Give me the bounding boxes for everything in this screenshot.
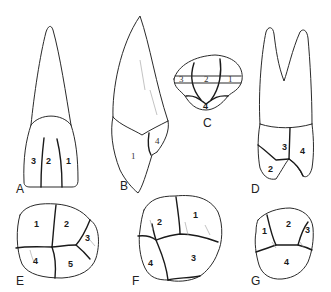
panel-label: D <box>251 182 260 196</box>
panel-label: G <box>251 274 260 288</box>
lobe-label: 4 <box>300 146 305 156</box>
lobe-label: 1 <box>228 74 233 84</box>
lobe-label: 1 <box>131 151 136 161</box>
panel-label: B <box>120 179 128 193</box>
lobe-label: 4 <box>148 258 153 268</box>
dental-lobes-figure: 3 2 1 A 1 4 B 3 2 1 4 C 3 4 2 <box>0 0 331 292</box>
lobe-label: 5 <box>68 259 73 269</box>
panel-d-tooth: 3 4 2 D <box>251 28 314 196</box>
panel-f-tooth: 2 1 4 3 F <box>132 196 222 288</box>
lobe-label: 3 <box>85 233 90 243</box>
lobe-label: 2 <box>157 217 162 227</box>
panel-a-tooth: 3 2 1 A <box>16 26 78 196</box>
lobe-label: 3 <box>31 156 36 166</box>
panel-label: A <box>16 182 24 196</box>
panel-e-tooth: 1 2 3 4 5 E <box>16 204 98 288</box>
lobe-label: 1 <box>34 219 39 229</box>
lobe-label: 3 <box>282 142 287 152</box>
panel-label: E <box>16 274 24 288</box>
lobe-label: 1 <box>193 210 198 220</box>
lobe-label: 2 <box>204 74 209 84</box>
lobe-label: 4 <box>155 136 160 146</box>
panel-c-tooth: 3 2 1 4 C <box>174 55 242 130</box>
panel-g-tooth: 2 1 3 4 G <box>251 208 313 288</box>
lobe-label: 1 <box>262 226 267 236</box>
panel-label: C <box>203 116 212 130</box>
lobe-label: 2 <box>64 219 69 229</box>
lobe-label: 2 <box>268 164 273 174</box>
lobe-label: 4 <box>33 256 38 266</box>
lobe-label: 4 <box>284 257 289 267</box>
lobe-label: 2 <box>46 156 51 166</box>
lobe-label: 2 <box>286 219 291 229</box>
lobe-label: 3 <box>191 253 196 263</box>
lobe-label: 3 <box>305 225 310 235</box>
panel-label: F <box>132 274 139 288</box>
lobe-label: 1 <box>66 156 71 166</box>
lobe-label: 3 <box>179 74 184 84</box>
panel-b-tooth: 1 4 B <box>112 16 169 193</box>
lobe-label: 4 <box>203 101 208 111</box>
